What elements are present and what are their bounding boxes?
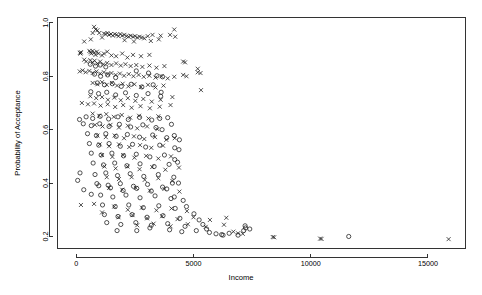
x-axis-title: Income <box>229 273 254 282</box>
y-tick-label: 0.8 <box>41 71 50 81</box>
y-tick-label: 1.0 <box>41 18 50 28</box>
x-tick-label: 5000 <box>186 259 202 268</box>
y-tick-label: 0.6 <box>41 125 50 135</box>
y-tick-label: 0.2 <box>41 231 50 241</box>
plot-canvas: 050001000015000 0.20.40.60.81.0 Income P… <box>0 0 482 295</box>
y-tick-label: 0.4 <box>41 178 50 188</box>
x-tick-label: 10000 <box>301 259 321 268</box>
x-tick-label: 15000 <box>418 259 438 268</box>
x-tick-label: 0 <box>74 259 78 268</box>
y-axis-title: Probability of Acceptance <box>13 90 22 175</box>
figure-background <box>0 0 482 295</box>
scatter-plot-figure: 050001000015000 0.20.40.60.81.0 Income P… <box>0 0 482 295</box>
